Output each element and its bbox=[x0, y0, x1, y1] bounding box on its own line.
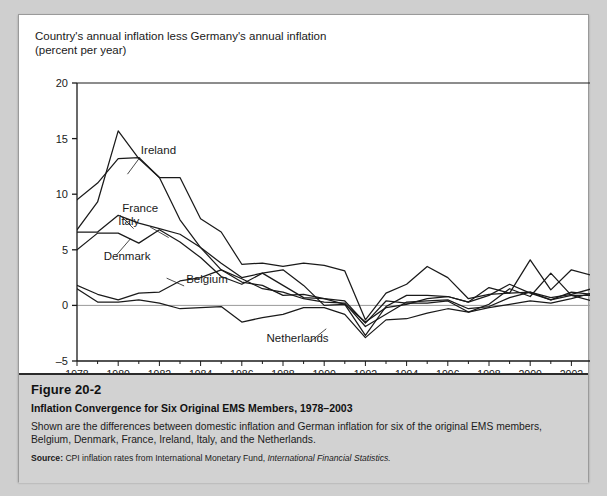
source-text: CPI inflation rates from International M… bbox=[63, 453, 267, 463]
y-tick-label: 5 bbox=[62, 244, 68, 256]
series-line-belgium bbox=[77, 270, 590, 327]
chart-region: Country's annual inflation less Germany'… bbox=[19, 15, 588, 373]
line-chart: –505101520197819801982198419861988199019… bbox=[19, 15, 590, 373]
figure-description: Shown are the differences between domest… bbox=[31, 420, 576, 446]
leader-line-belgium bbox=[167, 278, 185, 286]
series-label-france: France bbox=[122, 202, 158, 214]
series-label-italy: Italy bbox=[118, 215, 139, 227]
y-tick-label: 15 bbox=[56, 133, 68, 145]
figure-number: Figure 20-2 bbox=[31, 382, 576, 397]
figure-source: Source: CPI inflation rates from Interna… bbox=[31, 453, 576, 463]
y-tick-label: 10 bbox=[56, 188, 68, 200]
figure-title: Inflation Convergence for Six Original E… bbox=[31, 402, 576, 414]
caption-region: Figure 20-2 Inflation Convergence for Si… bbox=[19, 373, 588, 483]
series-line-italy bbox=[77, 158, 590, 320]
y-tick-label: 20 bbox=[56, 77, 68, 89]
page-root: Country's annual inflation less Germany'… bbox=[0, 0, 607, 496]
y-tick-label: 0 bbox=[62, 299, 68, 311]
series-label-belgium: Belgium bbox=[186, 273, 228, 285]
figure-panel: Country's annual inflation less Germany'… bbox=[18, 14, 589, 482]
series-line-france bbox=[77, 215, 590, 323]
series-line-denmark bbox=[77, 230, 590, 322]
series-label-denmark: Denmark bbox=[104, 250, 151, 262]
source-label: Source: bbox=[31, 453, 63, 463]
source-italic: International Financial Statistics. bbox=[267, 453, 390, 463]
leader-line-ireland bbox=[127, 158, 139, 175]
series-label-ireland: Ireland bbox=[141, 144, 176, 156]
y-tick-label: –5 bbox=[56, 355, 68, 367]
